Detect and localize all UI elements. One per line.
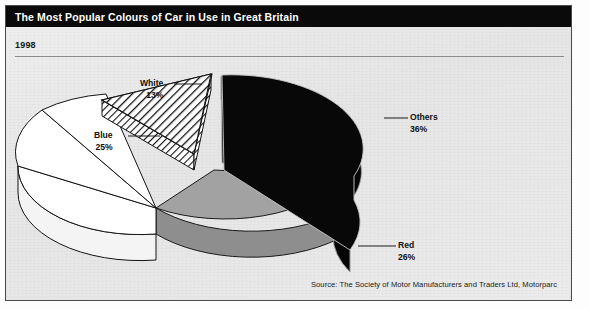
pie-label-white-name: White — [140, 78, 163, 90]
pie-label-others: Others 36% — [410, 112, 438, 135]
pie-label-red-value: 26% — [398, 252, 415, 264]
pie-label-others-value: 36% — [410, 124, 438, 136]
pie-label-white: White 13% — [140, 78, 163, 101]
pie-label-red: Red 26% — [398, 240, 415, 263]
year-label: 1998 — [15, 40, 36, 50]
source-note: Source: The Society of Motor Manufacture… — [311, 280, 557, 289]
pie-label-blue: Blue 25% — [94, 130, 113, 153]
pie-label-red-name: Red — [398, 240, 415, 252]
pie-label-white-value: 13% — [140, 90, 163, 102]
pie-label-others-name: Others — [410, 112, 438, 124]
header-divider — [15, 56, 564, 57]
pie-label-blue-name: Blue — [94, 130, 113, 142]
page-title: The Most Popular Colours of Car in Use i… — [6, 11, 299, 23]
pie-label-blue-value: 25% — [94, 142, 113, 154]
chart-panel: The Most Popular Colours of Car in Use i… — [5, 5, 572, 301]
pie-chart — [6, 58, 572, 301]
chart-title-bar: The Most Popular Colours of Car in Use i… — [6, 6, 571, 27]
screenshot-root: The Most Popular Colours of Car in Use i… — [0, 0, 589, 309]
